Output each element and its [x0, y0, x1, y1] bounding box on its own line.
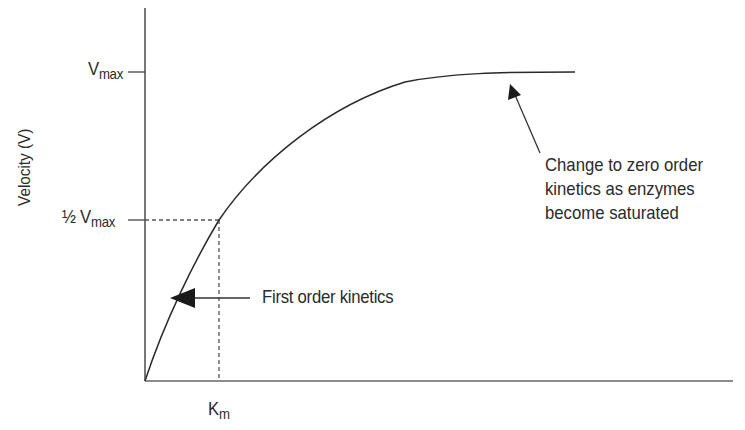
first-order-annotation: First order kinetics — [262, 286, 393, 308]
half-vmax-sub: max — [91, 213, 115, 230]
half-vmax-label: ½ Vmax — [62, 206, 115, 230]
zero-order-line-1: Change to zero order — [545, 153, 703, 177]
half-vmax-main: ½ V — [62, 206, 91, 227]
zero-order-arrow-line — [515, 95, 540, 153]
zero-order-arrowhead-icon — [508, 84, 521, 100]
km-sub: m — [219, 405, 230, 422]
vmax-sub: max — [99, 65, 123, 82]
y-axis-label: Velocity (V) — [15, 129, 35, 206]
vmax-label: Vmax — [88, 58, 123, 82]
velocity-curve — [145, 72, 575, 381]
zero-order-annotation: Change to zero order kinetics as enzymes… — [545, 153, 703, 225]
zero-order-line-2: kinetics as enzymes — [545, 177, 703, 201]
km-main: K — [208, 398, 219, 419]
km-label: Km — [208, 398, 230, 422]
vmax-main: V — [88, 58, 99, 79]
zero-order-line-3: become saturated — [545, 201, 703, 225]
first-order-arrowhead-icon — [170, 288, 195, 308]
